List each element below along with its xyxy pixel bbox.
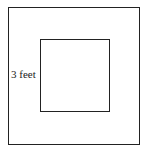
gap-width-label: 3 feet <box>11 68 36 81</box>
inner-square <box>40 39 110 112</box>
